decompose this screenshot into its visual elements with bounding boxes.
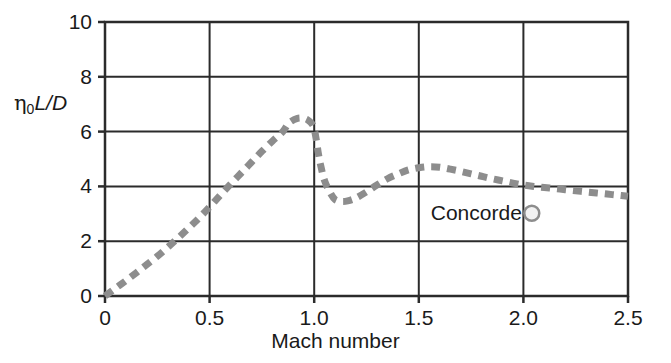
- plot-frame: [105, 22, 628, 296]
- y-tick-label: 4: [52, 175, 92, 196]
- data-series-line: [105, 118, 628, 296]
- y-tick-label: 10: [52, 11, 92, 32]
- concorde-marker: [524, 206, 539, 221]
- x-tick-label: 1.5: [389, 307, 449, 328]
- y-tick-label: 8: [52, 66, 92, 87]
- chart-figure: η0L/D Mach number Concorde 024681000.51.…: [0, 0, 671, 363]
- eta-symbol: η: [14, 91, 27, 115]
- concorde-annotation-label: Concorde: [431, 202, 522, 223]
- y-axis-label: η0L/D: [14, 92, 67, 116]
- x-tick-label: 2.0: [493, 307, 553, 328]
- x-tick-label: 1.0: [284, 307, 344, 328]
- y-tick-label: 0: [52, 285, 92, 306]
- x-tick-label: 0: [75, 307, 135, 328]
- y-tick-label: 6: [52, 121, 92, 142]
- y-tick-label: 2: [52, 230, 92, 251]
- x-tick-label: 2.5: [598, 307, 658, 328]
- x-axis-label: Mach number: [0, 330, 671, 351]
- x-tick-label: 0.5: [180, 307, 240, 328]
- ld-ratio-label: L/D: [34, 91, 67, 114]
